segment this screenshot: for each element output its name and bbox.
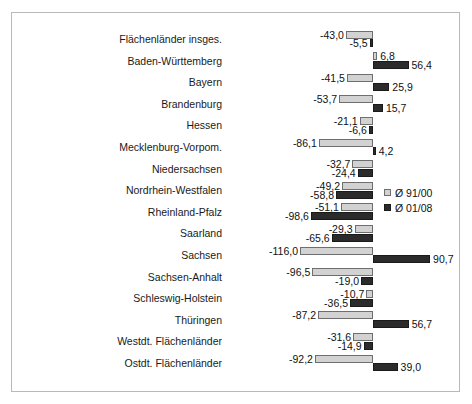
chart-row: Schleswig-Holstein-10,7-36,5 xyxy=(0,288,472,310)
bar-series-b xyxy=(373,104,383,112)
bar-series-a xyxy=(342,182,373,190)
chart-legend: Ø 91/00 Ø 01/08 xyxy=(384,185,460,215)
bar-value-label: -86,1 xyxy=(293,138,317,148)
chart-row: Sachsen-116,090,7 xyxy=(0,245,472,267)
bar-group: -32,7-24,4 xyxy=(0,159,472,181)
bar-value-label: -5,5 xyxy=(349,38,367,48)
bar-series-a xyxy=(341,203,373,211)
bar-value-label: -14,9 xyxy=(338,341,362,351)
bar-group: -29,3-65,6 xyxy=(0,223,472,245)
chart-row: Westdt. Flächenländer-31,6-14,9 xyxy=(0,331,472,353)
chart-row: Baden-Württemberg6,856,4 xyxy=(0,51,472,73)
bar-series-a xyxy=(319,139,373,147)
bar-series-a xyxy=(318,311,373,319)
bar-value-label: 6,8 xyxy=(380,51,395,61)
bar-group: -87,256,7 xyxy=(0,310,472,332)
bar-series-a xyxy=(347,74,373,82)
bar-group: -10,7-36,5 xyxy=(0,288,472,310)
legend-label-1: Ø 01/08 xyxy=(395,202,432,214)
bar-series-b xyxy=(373,320,409,328)
bar-group: -92,239,0 xyxy=(0,353,472,375)
bar-group: -96,5-19,0 xyxy=(0,267,472,289)
bar-series-b xyxy=(373,255,430,263)
legend-item-1: Ø 01/08 xyxy=(384,200,460,215)
chart-row: Brandenburg-53,715,7 xyxy=(0,94,472,116)
bar-series-a xyxy=(315,355,373,363)
bar-series-b xyxy=(369,126,373,134)
chart-row: Bayern-41,525,9 xyxy=(0,72,472,94)
bar-value-label: -116,0 xyxy=(269,246,298,256)
chart-row: Mecklenburg-Vorpom.-86,14,2 xyxy=(0,137,472,159)
bar-series-b xyxy=(373,147,376,155)
bar-series-b xyxy=(373,83,389,91)
legend-swatch-icon-1 xyxy=(384,204,391,211)
bar-value-label: -98,6 xyxy=(285,211,309,221)
bar-value-label: -41,5 xyxy=(321,73,345,83)
chart-row: Thüringen-87,256,7 xyxy=(0,310,472,332)
bar-series-b xyxy=(370,39,373,47)
chart-row: Niedersachsen-32,7-24,4 xyxy=(0,159,472,181)
legend-item-0: Ø 91/00 xyxy=(384,185,460,200)
bar-series-b xyxy=(332,234,373,242)
bar-series-a xyxy=(366,290,373,298)
bar-value-label: 4,2 xyxy=(379,146,394,156)
bar-value-label: 56,7 xyxy=(412,319,432,329)
bar-series-a xyxy=(339,95,373,103)
bar-value-label: -29,3 xyxy=(329,224,353,234)
bar-value-label: 15,7 xyxy=(386,103,406,113)
bar-series-b xyxy=(364,342,373,350)
bar-series-b xyxy=(350,299,373,307)
bar-value-label: 39,0 xyxy=(401,362,421,372)
bar-series-b xyxy=(373,363,398,371)
bar-series-a xyxy=(300,247,373,255)
bar-value-label: 90,7 xyxy=(433,254,453,264)
bar-value-label: 25,9 xyxy=(392,82,412,92)
bar-value-label: -43,0 xyxy=(320,30,344,40)
bar-group: -21,1-6,6 xyxy=(0,115,472,137)
bar-group: -31,6-14,9 xyxy=(0,331,472,353)
bar-series-b xyxy=(358,169,373,177)
legend-swatch-icon-0 xyxy=(384,189,391,196)
bar-series-b xyxy=(336,191,373,199)
chart-row: Sachsen-Anhalt-96,5-19,0 xyxy=(0,267,472,289)
chart-row: Hessen-21,1-6,6 xyxy=(0,115,472,137)
bar-value-label: -65,6 xyxy=(306,233,330,243)
bar-value-label: -92,2 xyxy=(289,354,313,364)
bar-group: 6,856,4 xyxy=(0,51,472,73)
bar-group: -53,715,7 xyxy=(0,94,472,116)
bar-series-a xyxy=(373,52,377,60)
legend-label-0: Ø 91/00 xyxy=(395,187,432,199)
bar-group: -86,14,2 xyxy=(0,137,472,159)
bar-value-label: 56,4 xyxy=(412,60,432,70)
bar-value-label: -24,4 xyxy=(332,168,356,178)
bar-group: -116,090,7 xyxy=(0,245,472,267)
bar-value-label: -36,5 xyxy=(324,298,348,308)
bar-series-b xyxy=(373,61,409,69)
chart-row: Ostdt. Flächenländer-92,239,0 xyxy=(0,353,472,375)
bar-value-label: -6,6 xyxy=(349,125,367,135)
bar-series-a xyxy=(355,225,373,233)
bar-value-label: -58,8 xyxy=(310,190,334,200)
chart-row: Flächenländer insges.-43,0-5,5 xyxy=(0,29,472,51)
bar-value-label: -19,0 xyxy=(335,276,359,286)
bar-value-label: -51,1 xyxy=(315,202,339,212)
bar-group: -43,0-5,5 xyxy=(0,29,472,51)
bar-group: -41,525,9 xyxy=(0,72,472,94)
chart-row: Saarland-29,3-65,6 xyxy=(0,223,472,245)
bar-value-label: -87,2 xyxy=(292,310,316,320)
bar-series-b xyxy=(311,212,373,220)
bar-series-b xyxy=(361,277,373,285)
bar-value-label: -53,7 xyxy=(313,94,337,104)
bar-value-label: -96,5 xyxy=(286,267,310,277)
